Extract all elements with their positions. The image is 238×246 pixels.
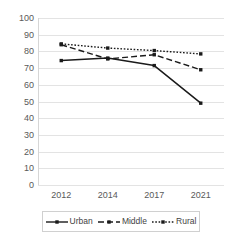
y-axis: 1009080706050403020100 [0,18,34,185]
plot-area [38,18,224,185]
x-axis-tick-label: 2012 [51,190,71,200]
data-point-marker [199,52,202,55]
series-rural [60,42,203,55]
data-point-marker [199,68,202,71]
legend-item-middle[interactable]: Middle [98,217,147,226]
data-point-marker [199,101,202,104]
y-axis-tick-label: 50 [0,97,34,106]
series-line [61,44,201,54]
y-axis-tick-label: 30 [0,130,34,139]
y-axis-tick-label: 0 [0,181,34,190]
y-axis-tick-label: 90 [0,30,34,39]
y-axis-tick-label: 70 [0,64,34,73]
legend-swatch-dotted-line-icon [152,218,174,226]
data-point-marker [106,57,109,60]
y-axis-tick-label: 100 [0,14,34,23]
data-point-marker [60,42,63,45]
gridline [38,185,224,186]
data-point-marker [106,46,109,49]
y-axis-tick-label: 80 [0,47,34,56]
data-point-marker [153,53,156,56]
line-chart: 1009080706050403020100 2012201420172021 … [0,0,238,246]
legend-label: Middle [122,217,147,226]
x-axis-tick-label: 2021 [191,190,211,200]
data-point-marker [153,64,156,67]
y-axis-tick-label: 60 [0,80,34,89]
legend-label: Urban [70,217,93,226]
data-point-marker [60,59,63,62]
series-layer [38,18,224,185]
series-line [61,45,201,70]
series-line [61,58,201,103]
legend-item-rural[interactable]: Rural [152,217,196,226]
chart-legend: UrbanMiddleRural [42,211,200,232]
x-axis: 2012201420172021 [38,190,224,204]
y-axis-tick-label: 40 [0,114,34,123]
legend-swatch-dashed-line-icon [98,218,120,226]
legend-swatch-solid-line-icon [46,218,68,226]
data-point-marker [153,49,156,52]
series-middle [60,43,203,71]
legend-label: Rural [176,217,196,226]
y-axis-tick-label: 20 [0,147,34,156]
x-axis-tick-label: 2014 [98,190,118,200]
series-urban [60,56,203,104]
y-axis-tick-label: 10 [0,164,34,173]
x-axis-tick-label: 2017 [144,190,164,200]
legend-item-urban[interactable]: Urban [46,217,93,226]
